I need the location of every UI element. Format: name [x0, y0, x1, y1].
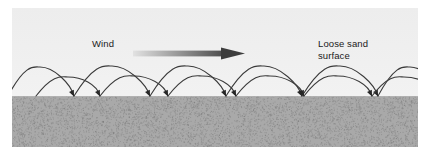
- wind-direction-arrow: [133, 47, 245, 60]
- saltation-diagram: Wind Loose sandsurface: [0, 0, 428, 167]
- trajectory-layer: [12, 8, 418, 147]
- loose-sand-label-line2: surface: [318, 50, 350, 61]
- loose-sand-label-line1: Loose sand: [318, 38, 368, 49]
- loose-sand-surface-label: Loose sandsurface: [318, 38, 368, 61]
- diagram-panel: Wind Loose sandsurface: [12, 8, 418, 147]
- wind-label: Wind: [92, 38, 114, 50]
